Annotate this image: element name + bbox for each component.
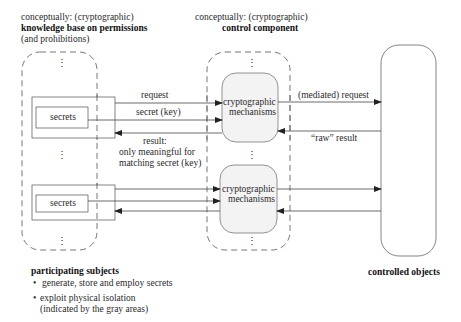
secret-key-label: secret (key) <box>136 107 181 118</box>
ellipsis-left-top: ⋮ <box>57 58 67 69</box>
ellipsis-mid-bottom: ⋮ <box>247 236 257 247</box>
bullet-text-2-line2: (indicated by the gray areas) <box>40 304 148 315</box>
controlled-objects-title: controlled objects <box>368 267 440 278</box>
bullet-text-1: generate, store and employ secrets <box>42 278 173 289</box>
result-label-line2: only meaningful for <box>119 147 195 158</box>
left-header-line3: (and prohibitions) <box>21 34 89 45</box>
middle-header-title: control component <box>222 23 298 34</box>
left-header-title: knowledge base on permissions <box>21 23 147 34</box>
mechanism-2-line2: mechanisms <box>228 194 275 205</box>
secrets-label-2: secrets <box>50 198 76 209</box>
ellipsis-left-mid: ⋮ <box>57 150 67 161</box>
ellipsis-mid-top: ⋮ <box>247 58 257 69</box>
result-label-line1: result: <box>143 136 167 147</box>
controlled-objects-box <box>381 45 436 256</box>
bullet-icon-2: • <box>33 293 36 304</box>
participating-subjects-title: participating subjects <box>31 266 119 277</box>
result-label-line3: matching secret (key) <box>119 158 201 169</box>
mechanism-1-line2: mechanisms <box>229 107 276 118</box>
ellipsis-left-bottom: ⋮ <box>57 236 67 247</box>
secrets-label-1: secrets <box>50 112 76 123</box>
mediated-request-label: (mediated) request <box>298 90 369 101</box>
bullet-icon-1: • <box>33 278 36 289</box>
request-label: request <box>141 90 168 101</box>
ellipsis-mid-mid: ⋮ <box>247 150 257 161</box>
left-header-line1: conceptually: (cryptographic) <box>21 12 134 23</box>
middle-header-line1: conceptually: (cryptographic) <box>195 12 308 23</box>
raw-result-label: “raw” result <box>311 133 357 144</box>
bullet-text-2-line1: exploit physical isolation <box>40 293 136 304</box>
